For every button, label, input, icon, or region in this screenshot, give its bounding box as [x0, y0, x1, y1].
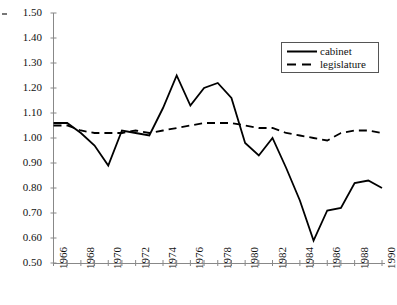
x-tick-label: 1984 [304, 247, 315, 269]
legend-label-legislature: legislature [320, 59, 366, 70]
x-tick-label: 1974 [167, 247, 178, 269]
y-tick-label: 1.30 [8, 57, 42, 68]
y-tick-label: 1.40 [8, 32, 42, 43]
y-tick-label: 0.50 [8, 257, 42, 268]
x-tick-label: 1976 [194, 247, 205, 269]
x-tick-label: 1980 [249, 247, 260, 269]
x-tick-label: 1988 [359, 247, 370, 269]
legend-swatch-solid-icon [287, 47, 317, 56]
x-tick-label: 1982 [277, 247, 288, 269]
y-tick-label: 0.80 [8, 182, 42, 193]
legend-swatch-dashed-icon [287, 60, 317, 69]
y-tick-label: 0.90 [8, 157, 42, 168]
x-tick-label: 1978 [222, 247, 233, 269]
x-tick-label: 1970 [112, 247, 123, 269]
y-tick-label: 1.20 [8, 82, 42, 93]
legend-item-cabinet: cabinet [287, 45, 352, 58]
data-series-group [54, 76, 383, 241]
series-line-legislature [54, 123, 383, 141]
x-tick-label: 1990 [386, 247, 397, 269]
y-tick-label: 1.10 [8, 107, 42, 118]
chart-legend: cabinet legislature [281, 42, 379, 73]
x-tick-label: 1966 [58, 247, 69, 269]
x-tick-label: 1986 [331, 247, 342, 269]
y-tick-label: 1.00 [8, 132, 42, 143]
y-tick-label: 0.70 [8, 207, 42, 218]
legend-item-legislature: legislature [287, 58, 366, 71]
legend-label-cabinet: cabinet [320, 46, 352, 57]
x-tick-label: 1972 [140, 247, 151, 269]
y-tick-label: 1.50 [8, 7, 42, 18]
y-tick-label: 0.60 [8, 232, 42, 243]
x-tick-label: 1968 [85, 247, 96, 269]
series-line-cabinet [54, 76, 383, 241]
